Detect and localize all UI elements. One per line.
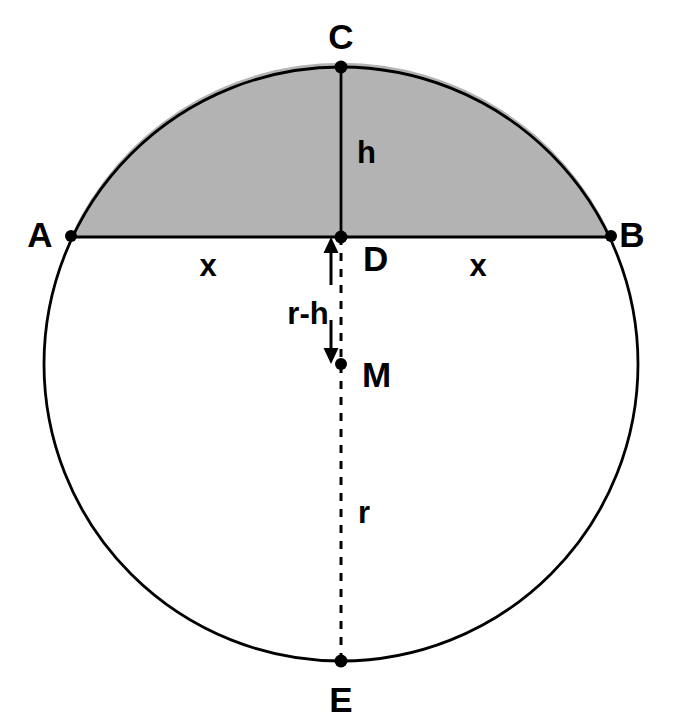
label-half-chord-left-x: x	[199, 248, 217, 283]
label-point-a: A	[27, 215, 52, 254]
label-point-b: B	[619, 215, 644, 254]
label-height-h: h	[357, 135, 376, 170]
point-d-dot	[335, 231, 348, 244]
label-radius-r: r	[358, 495, 370, 530]
label-point-m: M	[362, 355, 391, 394]
label-point-c: C	[328, 17, 353, 56]
label-half-chord-right-x: x	[469, 248, 487, 283]
label-apothem-r-minus-h: r-h	[287, 296, 328, 331]
point-c-dot	[335, 61, 348, 74]
point-a-dot	[65, 230, 77, 242]
point-e-dot	[335, 655, 348, 668]
label-point-d: D	[363, 239, 388, 278]
geometry-diagram-canvas: A B C D M E h x x r-h r	[0, 0, 676, 725]
circular-segment-figure: A B C D M E h x x r-h r	[0, 0, 676, 725]
point-m-dot	[335, 358, 347, 370]
label-point-e: E	[329, 680, 352, 719]
point-b-dot	[605, 230, 617, 242]
